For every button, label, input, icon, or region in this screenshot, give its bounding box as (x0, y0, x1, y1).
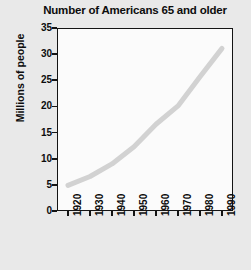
chart-figure: Number of Americans 65 and older Million… (0, 0, 251, 270)
x-axis-tick-mark (221, 211, 223, 216)
x-axis-tick-labels: 19201930194019501960197019801990 (0, 0, 251, 270)
x-axis-tick-label: 1950 (138, 194, 149, 216)
x-axis-tick-mark (133, 211, 135, 216)
x-axis-tick-mark (177, 211, 179, 216)
x-axis-tick-label: 1980 (204, 194, 215, 216)
x-axis-tick-label: 1960 (160, 194, 171, 216)
x-axis-tick-mark (199, 211, 201, 216)
x-axis-tick-label: 1940 (116, 194, 127, 216)
x-axis-tick-mark (111, 211, 113, 216)
x-axis-tick-mark (155, 211, 157, 216)
x-axis-tick-label: 1970 (182, 194, 193, 216)
x-axis-tick-mark (67, 211, 69, 216)
x-axis-tick-label: 1990 (226, 194, 237, 216)
x-axis-tick-label: 1930 (94, 194, 105, 216)
x-axis-tick-label: 1920 (72, 194, 83, 216)
x-axis-tick-mark (89, 211, 91, 216)
